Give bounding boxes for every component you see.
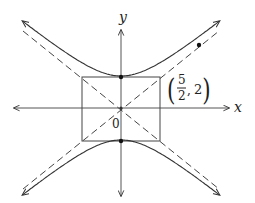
- label-comma: ,: [187, 83, 191, 97]
- corner-coordinate-label: ( 5 2 , 2 ): [167, 72, 211, 106]
- origin-label: 0: [112, 117, 120, 131]
- label-close-paren: ): [202, 72, 210, 106]
- label-second-coord: 2: [194, 82, 202, 97]
- vertex-bottom-dot: [119, 139, 123, 143]
- hyperbola-diagram: y x 0 ( 5 2 , 2 ): [0, 0, 255, 203]
- x-axis-label: x: [234, 99, 242, 115]
- label-numerator: 5: [178, 73, 186, 87]
- origin-dot: [120, 107, 123, 110]
- label-denominator: 2: [178, 89, 186, 103]
- vertex-top-dot: [119, 75, 123, 79]
- curve-point-dot: [197, 43, 201, 47]
- label-open-paren: (: [167, 72, 175, 106]
- y-axis-label: y: [118, 9, 128, 25]
